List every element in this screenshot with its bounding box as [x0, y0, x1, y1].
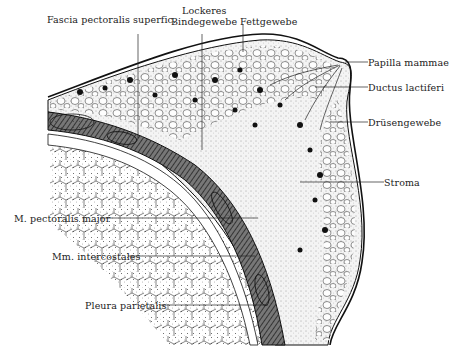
label-lockeres: Lockeres: [182, 5, 227, 16]
label-fascia-pectoralis: Fascia pectoralis superfic.: [47, 14, 176, 25]
label-bindegewebe: Bindegewebe: [171, 16, 237, 27]
label-pectoralis-major: M. pectoralis major: [14, 213, 110, 224]
label-stroma: Stroma: [384, 177, 420, 188]
label-intercostales: Mm. intercostales: [52, 251, 141, 262]
label-fettgewebe: Fettgewebe: [240, 16, 298, 27]
label-pleura-parietalis: Pleura parietalis: [85, 300, 166, 311]
label-papilla-mammae: Papilla mammae: [368, 57, 449, 68]
breast-cross-section-illustration: [0, 0, 450, 348]
label-druesengewebe: Drüsengewebe: [368, 117, 441, 128]
label-ductus-lactiferi: Ductus lactiferi: [368, 82, 444, 93]
